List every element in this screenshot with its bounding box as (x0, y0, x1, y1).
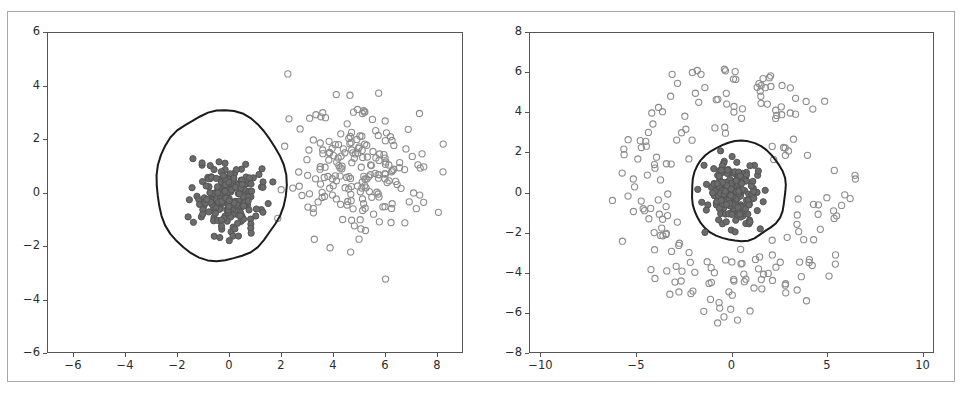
data-point-outlier (358, 164, 364, 170)
data-point-inlier (737, 211, 743, 217)
data-point-inlier (207, 190, 213, 196)
data-point-outlier (388, 219, 394, 225)
data-point-inlier (729, 153, 735, 159)
data-point-outlier (383, 130, 389, 136)
data-point-outlier (370, 211, 376, 217)
data-point-inlier (232, 184, 238, 190)
data-point-outlier (787, 85, 793, 91)
data-point-outlier (440, 141, 446, 147)
y-tick-label: −2 (505, 227, 522, 239)
data-point-inlier (710, 190, 716, 196)
data-point-outlier (297, 126, 303, 132)
data-point-outlier (702, 84, 708, 90)
x-tick-mark (827, 353, 828, 357)
data-point-outlier (419, 151, 425, 157)
data-point-outlier (712, 125, 718, 131)
y-tick-mark (525, 233, 529, 234)
data-point-inlier (211, 233, 217, 239)
x-tick-mark (177, 353, 178, 357)
data-point-outlier (790, 136, 796, 142)
data-point-inlier (702, 229, 708, 235)
data-point-outlier (652, 275, 658, 281)
data-point-inlier (220, 173, 226, 179)
data-point-outlier (344, 121, 350, 127)
data-point-outlier (782, 152, 788, 158)
y-tick-label: −4 (23, 294, 40, 306)
data-point-outlier (296, 169, 302, 175)
data-point-inlier (723, 219, 729, 225)
scatter-panel-right: −10−50510−8−6−4−202468 (481, 0, 962, 394)
data-point-outlier (406, 199, 412, 205)
data-point-inlier (232, 226, 238, 232)
data-point-inlier (214, 184, 220, 190)
data-point-outlier (417, 192, 423, 198)
x-tick-label: 8 (433, 360, 440, 372)
data-point-inlier (218, 223, 224, 229)
x-tick-label: −2 (169, 360, 186, 372)
plot-canvas-left (48, 33, 464, 354)
data-point-inlier (239, 181, 245, 187)
y-tick-mark (43, 300, 47, 301)
data-point-outlier (398, 185, 404, 191)
data-point-outlier (347, 92, 353, 98)
y-tick-label: −8 (505, 347, 522, 359)
data-point-inlier (189, 185, 195, 191)
y-tick-mark (525, 193, 529, 194)
figure-container: −6−4−202468−6−4−20246 −10−50510−8−6−4−20… (0, 0, 962, 394)
data-point-inlier (211, 166, 217, 172)
data-point-outlier (794, 212, 800, 218)
data-point-outlier (722, 130, 728, 136)
data-point-outlier (409, 153, 415, 159)
data-point-outlier (665, 191, 671, 197)
data-point-outlier (824, 195, 830, 201)
data-point-outlier (338, 131, 344, 137)
data-point-inlier (750, 188, 756, 194)
data-point-outlier (315, 199, 321, 205)
data-point-outlier (758, 100, 764, 106)
scatter-series-inliers (695, 148, 769, 236)
data-point-inlier (218, 217, 224, 223)
data-point-inlier (236, 191, 242, 197)
data-point-outlier (722, 124, 728, 130)
data-point-inlier (703, 181, 709, 187)
data-point-inlier (746, 202, 752, 208)
x-tick-mark (385, 353, 386, 357)
y-tick-mark (525, 273, 529, 274)
data-point-inlier (695, 186, 701, 192)
data-point-outlier (653, 154, 659, 160)
scatter-series-inliers (185, 156, 276, 244)
data-point-inlier (734, 159, 740, 165)
data-point-outlier (625, 193, 631, 199)
data-point-outlier (370, 148, 376, 154)
x-tick-mark (229, 353, 230, 357)
data-point-inlier (701, 162, 707, 168)
data-point-outlier (664, 268, 670, 274)
data-point-outlier (797, 259, 803, 265)
data-point-inlier (711, 166, 717, 172)
y-tick-label: −6 (505, 307, 522, 319)
x-tick-mark (125, 353, 126, 357)
data-point-outlier (769, 237, 775, 243)
data-point-outlier (310, 137, 316, 143)
data-point-outlier (686, 250, 692, 256)
data-point-outlier (698, 71, 704, 77)
data-point-outlier (304, 157, 310, 163)
data-point-inlier (718, 197, 724, 203)
x-tick-mark (333, 353, 334, 357)
data-point-inlier (751, 195, 757, 201)
data-point-outlier (668, 248, 674, 254)
data-point-outlier (674, 80, 680, 86)
y-tick-mark (43, 32, 47, 33)
data-point-outlier (676, 289, 682, 295)
data-point-inlier (233, 167, 239, 173)
y-tick-mark (525, 313, 529, 314)
data-point-outlier (764, 101, 770, 107)
data-point-outlier (299, 192, 305, 198)
data-point-outlier (687, 259, 693, 265)
y-tick-label: 4 (33, 80, 40, 92)
y-tick-label: 6 (33, 26, 40, 38)
x-tick-label: 6 (381, 360, 388, 372)
data-point-inlier (246, 175, 252, 181)
data-point-outlier (689, 137, 695, 143)
data-point-outlier (826, 273, 832, 279)
